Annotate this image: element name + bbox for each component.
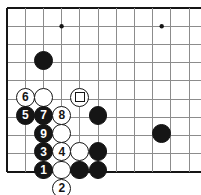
star-point bbox=[160, 24, 164, 28]
go-board-diagram: 657893412 bbox=[0, 0, 201, 195]
star-point bbox=[59, 24, 63, 28]
board-grid bbox=[0, 0, 201, 195]
